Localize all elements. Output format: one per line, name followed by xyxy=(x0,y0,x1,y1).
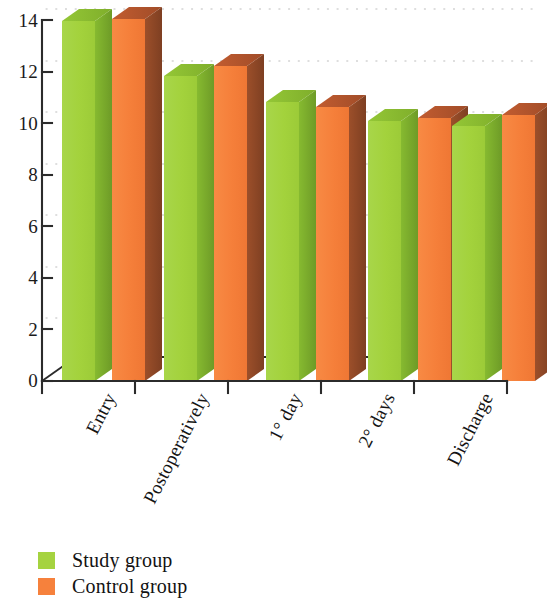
x-label-text: 1° day xyxy=(265,388,307,444)
chart-canvas xyxy=(0,0,547,400)
legend-item-study-group: Study group xyxy=(38,548,368,572)
bar-control-day1 xyxy=(316,95,366,381)
bar-study-discharge xyxy=(452,114,502,381)
legend-label-study-group: Study group xyxy=(72,549,173,571)
bar-group-postoperatively xyxy=(164,54,264,381)
bar-study-postoperatively xyxy=(164,64,214,381)
x-label-text: 2° days xyxy=(355,388,400,451)
x-label-text: Postoperatively xyxy=(140,388,214,507)
legend-label-control-group: Control group xyxy=(72,575,187,597)
legend-swatch-control-group xyxy=(38,578,55,595)
chart-legend: Study group Control group xyxy=(38,548,368,598)
bar-study-day1 xyxy=(266,90,316,381)
x-label-text: Entry xyxy=(82,388,120,437)
legend-swatch-study-group xyxy=(38,552,55,569)
legend-item-control-group: Control group xyxy=(38,574,368,598)
plot-area: 14 12 10 8 6 4 2 0 xyxy=(0,0,547,400)
x-label-text: Discharge xyxy=(443,388,497,469)
bar-control-entry xyxy=(112,7,162,381)
bar-study-entry xyxy=(62,9,112,381)
y-axis xyxy=(42,20,52,381)
x-axis-category-labels: Entry Postoperatively 1° day 2° days Dis… xyxy=(0,388,547,528)
bar-group-day1 xyxy=(266,90,366,381)
bar-group-entry xyxy=(62,7,162,381)
bar-chart: 14 12 10 8 6 4 2 0 xyxy=(0,0,547,598)
bar-group-discharge xyxy=(452,103,547,381)
